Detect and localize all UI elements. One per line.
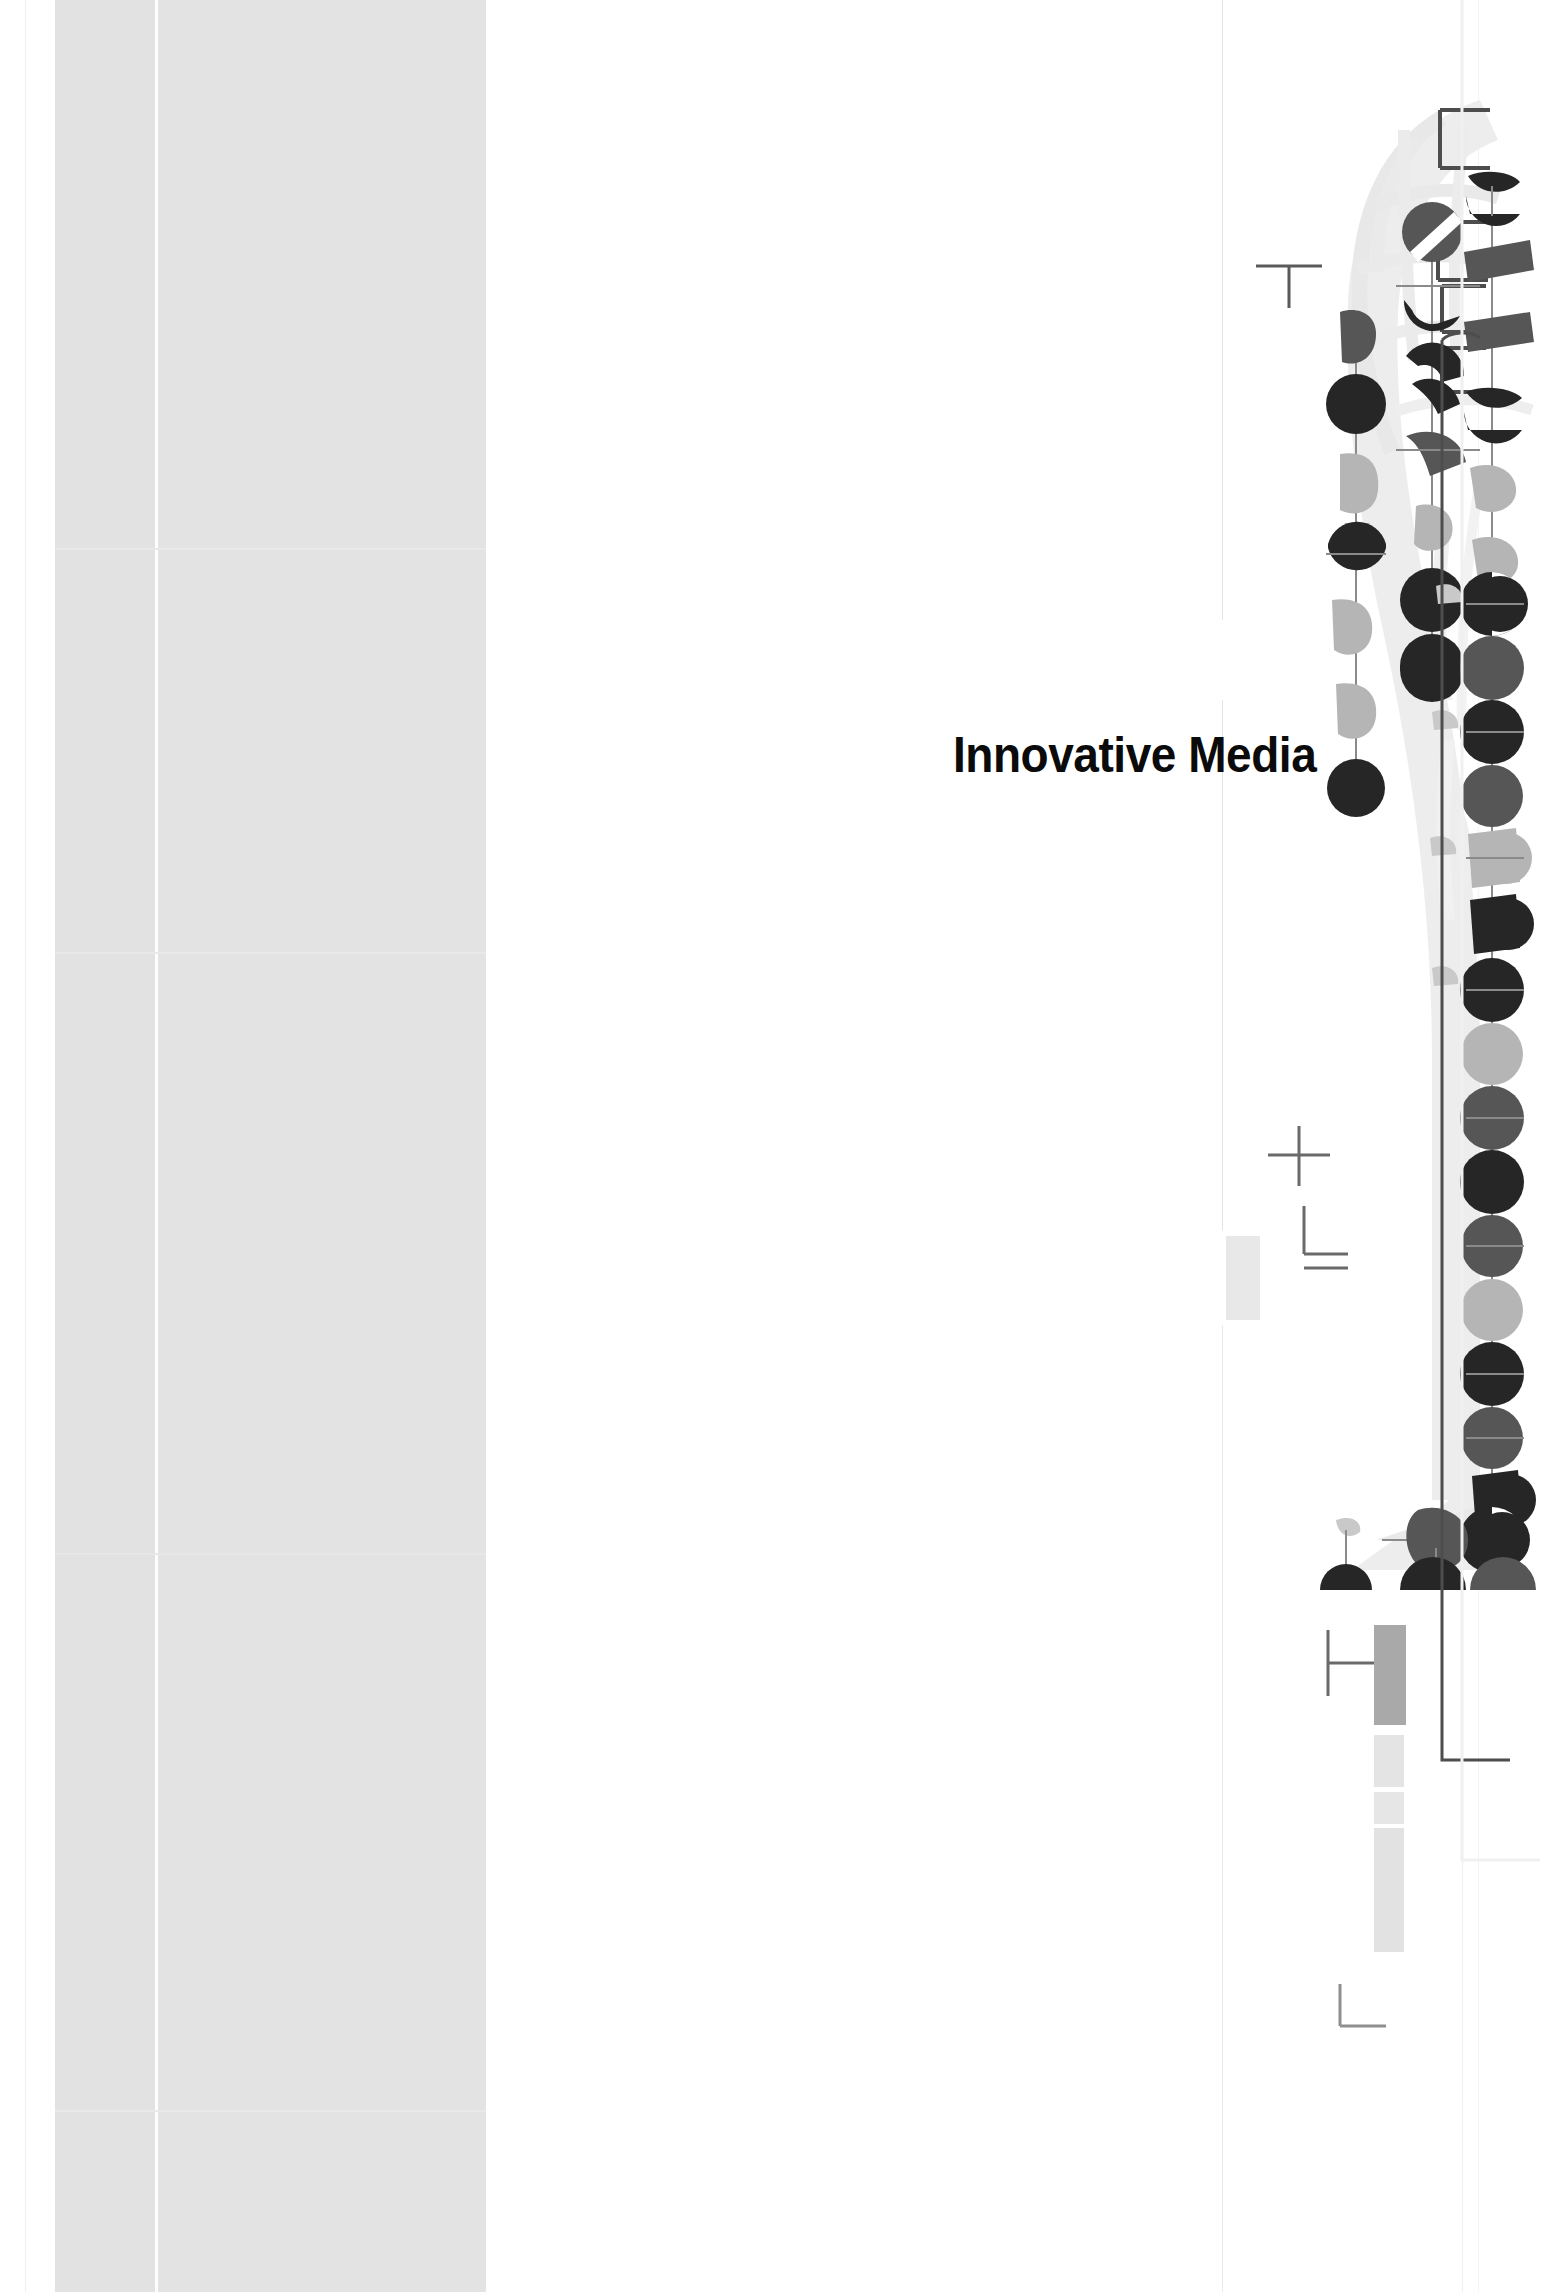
panel-seam-row-3 <box>55 1553 486 1555</box>
left-tint-band-wide <box>158 0 486 2292</box>
tone-bar-light-2 <box>1374 1792 1404 1824</box>
guide-rule-far-left <box>25 0 26 2292</box>
tone-bar-dark <box>1374 1625 1406 1725</box>
page-canvas: Innovative Media <box>0 0 1549 2292</box>
t-registration-mark <box>1256 266 1322 308</box>
plus-registration-mark <box>1268 1126 1330 1186</box>
l-corner-mark <box>1340 1984 1386 2026</box>
tone-bar-light-1 <box>1374 1735 1404 1787</box>
node-circle-split <box>1402 202 1462 262</box>
lower-t-registration-mark <box>1328 1630 1374 1696</box>
panel-seam-row-1 <box>55 548 486 550</box>
decorative-node-chain-artwork <box>1180 0 1549 2292</box>
tone-bar-light-3 <box>1374 1828 1404 1952</box>
corner-bracket-marks <box>1304 1206 1348 1268</box>
node-cluster-base <box>1320 1507 1536 1590</box>
left-tint-band-narrow <box>55 0 155 2292</box>
panel-seam-vertical <box>155 0 158 2292</box>
panel-seam-row-2 <box>55 952 486 954</box>
panel-seam-row-4 <box>55 2110 486 2112</box>
